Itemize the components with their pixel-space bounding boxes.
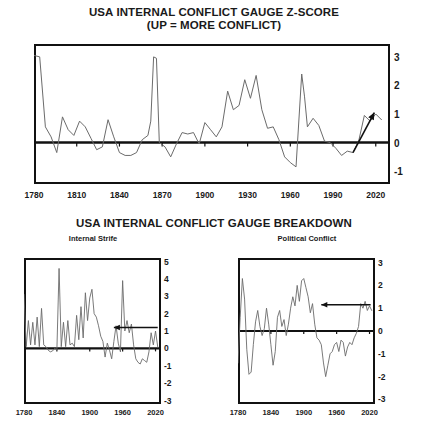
y-axis-tick-label: 5 [164, 257, 169, 267]
x-axis-tick-label: 1960 [114, 408, 131, 417]
x-axis-tick-label: 1960 [281, 190, 300, 200]
x-axis-tick-label: 1840 [263, 408, 280, 417]
main-title-line1: USA INTERNAL CONFLICT GAUGE Z-SCORE [89, 6, 339, 18]
y-axis-tick-label: 1 [378, 303, 383, 313]
chart-zscore-y-axis-labels: 3210-1 [394, 44, 416, 184]
main-title-line2: (UP = MORE CONFLICT) [0, 19, 428, 32]
x-axis-tick-label: 1780 [230, 408, 247, 417]
y-axis-tick-label: 4 [164, 274, 169, 284]
x-axis-tick-label: 1870 [153, 190, 172, 200]
x-axis-tick-label: 1900 [195, 190, 214, 200]
panel-title-internal-strife: Internal Strife [18, 234, 168, 243]
chart-internal-strife [24, 258, 161, 404]
x-axis-tick-label: 1810 [67, 190, 86, 200]
x-axis-tick-label: 2020 [366, 190, 385, 200]
y-axis-tick-label: 2 [394, 80, 400, 91]
y-axis-tick-label: 0 [378, 326, 383, 336]
y-axis-tick-label: 1 [164, 326, 169, 336]
chart-zscore-plot [34, 44, 390, 184]
y-axis-tick-label: -2 [378, 372, 386, 382]
chart-political-conflict [238, 258, 375, 404]
y-axis-tick-label: 3 [378, 258, 383, 268]
y-axis-tick-label: 3 [394, 51, 400, 62]
y-axis-tick-label: 2 [378, 280, 383, 290]
y-axis-tick-label: -1 [394, 166, 403, 177]
y-axis-tick-label: 3 [164, 291, 169, 301]
x-axis-tick-label: 1840 [110, 190, 129, 200]
y-axis-tick-label: 1 [394, 109, 400, 120]
y-axis-tick-label: 0 [164, 343, 169, 353]
y-axis-tick-label: -2 [164, 378, 172, 388]
page-title: USA INTERNAL CONFLICT GAUGE Z-SCORE (UP … [0, 6, 428, 31]
annotation-arrow [114, 325, 158, 331]
x-axis-tick-label: 2020 [361, 408, 378, 417]
y-axis-tick-label: 2 [164, 309, 169, 319]
y-axis-tick-label: 0 [394, 137, 400, 148]
chart-internal-strife-y-axis-labels: 543210-1-2-3 [164, 258, 184, 404]
breakdown-title: USA INTERNAL CONFLICT GAUGE BREAKDOWN [0, 217, 428, 229]
x-axis-tick-label: 2020 [147, 408, 164, 417]
chart-political-conflict-y-axis-labels: 3210-1-2-3 [378, 258, 400, 404]
chart-zscore [34, 44, 390, 184]
chart-zscore-x-axis-labels: 178018101840187019001930196019902020 [34, 190, 390, 204]
x-axis-tick-label: 1930 [238, 190, 257, 200]
x-axis-tick-label: 1960 [328, 408, 345, 417]
data-series-line [34, 55, 381, 166]
y-axis-tick-label: -3 [378, 394, 386, 404]
x-axis-tick-label: 1840 [49, 408, 66, 417]
data-series-line [238, 279, 372, 377]
chart-political-conflict-plot [238, 258, 375, 404]
x-axis-tick-label: 1780 [16, 408, 33, 417]
chart-internal-strife-x-axis-labels: 17801840190019602020 [24, 408, 161, 422]
data-series-line [24, 268, 158, 364]
chart-internal-strife-plot [24, 258, 161, 404]
y-axis-tick-label: -3 [164, 396, 172, 406]
x-axis-tick-label: 1780 [25, 190, 44, 200]
chart-political-conflict-x-axis-labels: 17801840190019602020 [238, 408, 375, 422]
x-axis-tick-label: 1900 [295, 408, 312, 417]
x-axis-tick-label: 1990 [324, 190, 343, 200]
y-axis-tick-label: -1 [164, 361, 172, 371]
y-axis-tick-label: -1 [378, 349, 386, 359]
panel-title-political-conflict: Political Conflict [232, 234, 382, 243]
x-axis-tick-label: 1900 [81, 408, 98, 417]
chart-page: USA INTERNAL CONFLICT GAUGE Z-SCORE (UP … [0, 0, 428, 440]
